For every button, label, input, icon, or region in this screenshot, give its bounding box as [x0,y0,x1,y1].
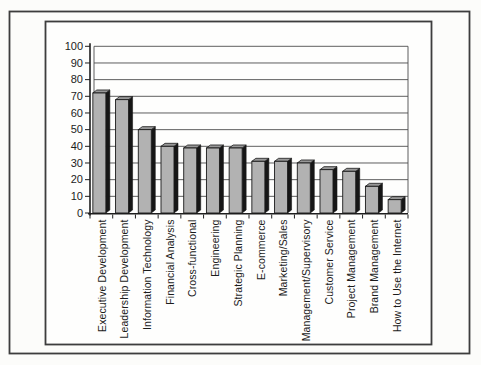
y-axis-tick-label: 20 [71,173,83,185]
x-axis-label: Financial Analysis [164,220,176,305]
bar [116,100,129,213]
bar-side-face [310,160,314,213]
y-axis-tick-label: 60 [71,107,83,119]
bar-side-face [356,168,360,213]
bar-side-face [106,90,110,213]
bar-side-face [378,183,382,213]
bar [161,146,174,213]
x-axis-label: E-commerce [255,219,267,280]
y-axis-tick-label: 90 [71,57,83,69]
bar [184,148,197,213]
x-axis-label: Marketing/Sales [277,220,289,297]
bar [297,163,310,213]
x-axis-label: Executive Development [96,220,108,332]
bar-side-face [197,145,201,213]
y-axis-tick-label: 0 [77,207,83,219]
bar [206,148,219,213]
y-axis-tick-label: 50 [71,123,83,135]
bar [252,161,265,213]
bar [320,170,333,213]
x-axis-label: Strategic Planning [232,219,244,306]
y-axis-tick-label: 30 [71,157,83,169]
y-axis-tick-label: 80 [71,73,83,85]
x-axis-label: Management/Supervisory [300,219,312,341]
y-axis-tick-label: 70 [71,90,83,102]
bar [365,186,378,213]
x-axis-label: Cross-functional [186,220,198,297]
bar-side-face [174,143,178,213]
scanned-document-page: 0102030405060708090100Executive Developm… [0,0,481,365]
bar [93,93,106,213]
x-axis-label: Information Technology [141,219,153,330]
bar-side-face [129,97,133,213]
x-axis-label: How to Use the Internet [391,220,403,333]
bar [138,130,151,213]
bar [388,200,401,213]
bar [275,161,288,213]
y-axis-tick-label: 100 [65,40,83,52]
y-axis-tick-label: 10 [71,190,83,202]
bar [229,148,242,213]
bar-side-face [265,158,269,213]
x-axis-label: Leadership Development [118,220,130,339]
bar [343,171,356,213]
bar-side-face [288,158,292,213]
bar-side-face [151,127,155,213]
x-axis-label: Engineering [209,219,221,276]
bar-side-face [219,145,223,213]
bar-side-face [333,167,337,213]
y-axis-tick-label: 40 [71,140,83,152]
bar-chart: 0102030405060708090100Executive Developm… [0,0,481,365]
x-axis-label: Project Management [345,220,357,319]
x-axis-label: Customer Service [323,219,335,304]
bar-side-face [242,145,246,213]
x-axis-label: Brand Management [368,220,380,314]
